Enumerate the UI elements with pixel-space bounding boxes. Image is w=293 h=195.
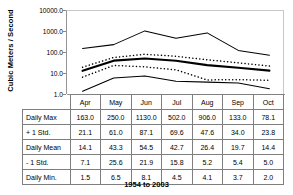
table-column-header-may: May (101, 95, 132, 110)
table-body: Daily Max163.0250.01130.0502.0906.0133.0… (23, 110, 284, 185)
table-cell: 5.0 (253, 155, 284, 170)
plot-area (66, 10, 284, 94)
y-axis-title-text: Cubic Meters / Second (6, 9, 15, 92)
y-axis-title: Cubic Meters / Second (0, 0, 20, 100)
table-cell: 163.0 (70, 110, 101, 125)
table-cell: 5.2 (192, 155, 223, 170)
plot-lines (67, 11, 285, 95)
table-cell: 87.1 (131, 125, 162, 140)
table-column-header-aug: Aug (192, 95, 223, 110)
data-table-container: AprMayJunJulAugSepOct Daily Max163.0250.… (22, 94, 284, 185)
table-cell: 61.0 (101, 125, 132, 140)
table-row-label: Daily Mean (23, 140, 71, 155)
table-cell: 14.4 (253, 140, 284, 155)
table-cell: 15.8 (162, 155, 193, 170)
table-cell: 7.1 (70, 155, 101, 170)
table-corner-cell (23, 95, 71, 110)
table-row-label: - 1 Std. (23, 155, 71, 170)
table-column-header-apr: Apr (70, 95, 101, 110)
table-column-header-jun: Jun (131, 95, 162, 110)
table-cell: 502.0 (162, 110, 193, 125)
table-cell: 42.7 (162, 140, 193, 155)
table-cell: 78.1 (253, 110, 284, 125)
table-row: - 1 Std.7.125.621.915.85.25.45.0 (23, 155, 284, 170)
series-line-0 (83, 31, 270, 55)
table-cell: 43.3 (101, 140, 132, 155)
table-cell: 26.4 (192, 140, 223, 155)
series-line-2 (83, 59, 270, 71)
table-cell: 21.1 (70, 125, 101, 140)
chart-area: 10000.01000.0100.010.01.0 (22, 10, 284, 94)
table-header-row: AprMayJunJulAugSepOct (23, 95, 284, 110)
table-cell: 47.6 (192, 125, 223, 140)
table-cell: 5.4 (223, 155, 254, 170)
table-cell: 14.1 (70, 140, 101, 155)
table-row: Daily Mean14.143.354.542.726.419.714.4 (23, 140, 284, 155)
table-cell: 21.9 (131, 155, 162, 170)
y-axis-tick-labels: 10000.01000.0100.010.01.0 (22, 10, 65, 94)
data-table: AprMayJunJulAugSepOct Daily Max163.0250.… (22, 94, 284, 185)
table-cell: 133.0 (223, 110, 254, 125)
table-row: + 1 Std.21.161.087.169.647.634.023.8 (23, 125, 284, 140)
table-cell: 19.7 (223, 140, 254, 155)
table-row: Daily Max163.0250.01130.0502.0906.0133.0… (23, 110, 284, 125)
table-cell: 250.0 (101, 110, 132, 125)
series-line-4 (83, 76, 270, 91)
table-cell: 23.8 (253, 125, 284, 140)
table-cell: 906.0 (192, 110, 223, 125)
chart-footer: 1954 to 2003 (0, 180, 293, 189)
table-row-label: Daily Max (23, 110, 71, 125)
chart-figure: Cubic Meters / Second 10000.01000.0100.0… (0, 0, 293, 195)
table-cell: 54.5 (131, 140, 162, 155)
y-axis-tick-1: 1000.0 (43, 28, 63, 35)
table-column-header-oct: Oct (253, 95, 284, 110)
table-cell: 1130.0 (131, 110, 162, 125)
table-column-header-jul: Jul (162, 95, 193, 110)
table-cell: 25.6 (101, 155, 132, 170)
y-axis-tick-2: 100.0 (46, 49, 63, 56)
table-cell: 69.6 (162, 125, 193, 140)
table-cell: 34.0 (223, 125, 254, 140)
table-row-label: + 1 Std. (23, 125, 71, 140)
y-axis-tick-0: 10000.0 (39, 7, 63, 14)
table-column-header-sep: Sep (223, 95, 254, 110)
